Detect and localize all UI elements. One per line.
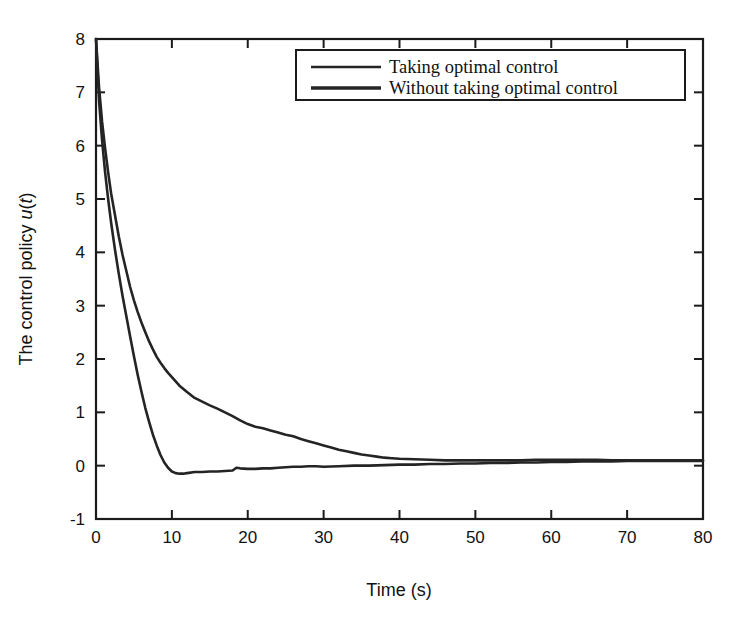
y-axis-title: The control policy u(t) xyxy=(16,192,36,365)
y-tick-label-1: 1 xyxy=(76,403,85,422)
svg-text:The control policy u(t): The control policy u(t) xyxy=(16,192,36,365)
x-axis-title: Time (s) xyxy=(366,580,431,600)
chart-figure: 01020304050607080 -1012345678 Time (s) T… xyxy=(0,0,741,619)
y-tick-label--1: -1 xyxy=(70,510,85,529)
x-tick-label-60: 60 xyxy=(542,528,561,547)
x-tick-label-80: 80 xyxy=(694,528,713,547)
x-tick-label-20: 20 xyxy=(238,528,257,547)
x-tick-label-70: 70 xyxy=(618,528,637,547)
legend: Taking optimal control Without taking op… xyxy=(296,50,685,100)
x-tick-label-50: 50 xyxy=(466,528,485,547)
line-chart: 01020304050607080 -1012345678 Time (s) T… xyxy=(0,0,741,619)
y-axis-title-variable-u: u xyxy=(16,209,36,219)
y-tick-label-0: 0 xyxy=(76,457,85,476)
x-tick-label-10: 10 xyxy=(162,528,181,547)
y-tick-label-2: 2 xyxy=(76,350,85,369)
y-tick-label-3: 3 xyxy=(76,297,85,316)
legend-label-1: Without taking optimal control xyxy=(389,78,618,98)
y-tick-label-7: 7 xyxy=(76,83,85,102)
y-tick-label-8: 8 xyxy=(76,30,85,49)
y-tick-label-5: 5 xyxy=(76,190,85,209)
x-tick-label-40: 40 xyxy=(390,528,409,547)
x-tick-label-0: 0 xyxy=(91,528,100,547)
legend-label-0: Taking optimal control xyxy=(389,57,558,77)
y-tick-label-4: 4 xyxy=(76,243,85,262)
x-tick-label-30: 30 xyxy=(314,528,333,547)
y-tick-label-6: 6 xyxy=(76,137,85,156)
y-axis-title-paren-close: ) xyxy=(16,192,36,198)
y-axis-title-main: The control policy xyxy=(16,219,36,365)
